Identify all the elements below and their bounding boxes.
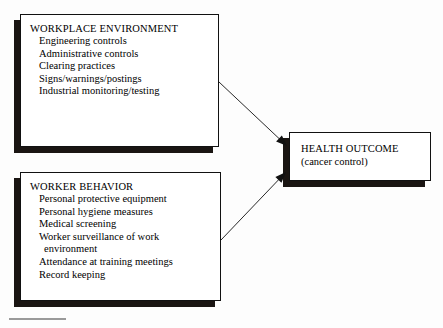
diagram-canvas: WORKPLACE ENVIRONMENT Engineering contro… [0, 0, 443, 328]
arrow-workplace-to-health-line [219, 82, 280, 140]
worker-item: Record keeping [39, 269, 214, 282]
workplace-item: Administrative controls [39, 48, 212, 61]
worker-box-body: WORKER BEHAVIOR Personal protective equi… [21, 173, 220, 300]
arrow-worker-to-health-line [221, 179, 280, 240]
health-outcome-box: HEALTH OUTCOME (cancer control) [289, 132, 431, 181]
worker-item: Worker surveillance of work [39, 231, 214, 244]
health-box-subtitle: (cancer control) [301, 155, 424, 168]
workplace-item: Engineering controls [39, 35, 212, 48]
worker-item: Medical screening [39, 218, 214, 231]
worker-item: Personal protective equipment [39, 193, 214, 206]
workplace-item: Industrial monitoring/testing [39, 85, 212, 98]
workplace-box-body: WORKPLACE ENVIRONMENT Engineering contro… [21, 15, 218, 146]
arrow-worker-to-health [221, 172, 286, 240]
health-box-body: HEALTH OUTCOME (cancer control) [290, 133, 430, 180]
workplace-environment-box: WORKPLACE ENVIRONMENT Engineering contro… [20, 14, 219, 147]
workplace-item-list: Engineering controls Administrative cont… [30, 35, 212, 98]
worker-item: Attendance at training meetings [39, 256, 214, 269]
workplace-item: Signs/warnings/postings [39, 73, 212, 86]
workplace-box-title: WORKPLACE ENVIRONMENT [30, 22, 212, 35]
footnote-rule [9, 318, 66, 320]
workplace-item: Clearing practices [39, 60, 212, 73]
worker-behavior-box: WORKER BEHAVIOR Personal protective equi… [20, 172, 221, 301]
health-box-title: HEALTH OUTCOME [301, 142, 424, 155]
worker-item-continuation: environment [39, 243, 214, 256]
arrow-workplace-to-health [219, 82, 287, 146]
worker-item: Personal hygiene measures [39, 206, 214, 219]
worker-item-list: Personal protective equipment Personal h… [30, 193, 214, 281]
worker-box-title: WORKER BEHAVIOR [30, 180, 214, 193]
